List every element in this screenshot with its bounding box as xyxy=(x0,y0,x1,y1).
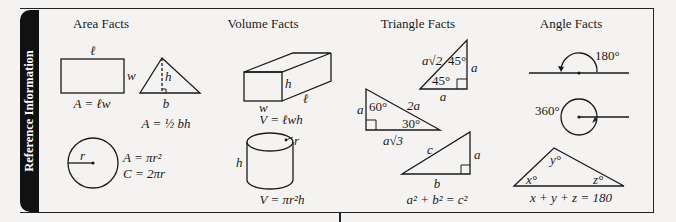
iso-angle-bottom: 45° xyxy=(432,73,450,88)
cylinder-top xyxy=(247,133,293,151)
triangle-base-label: b xyxy=(163,96,170,111)
angle-z-label: z° xyxy=(592,172,603,187)
rectangle-shape xyxy=(61,59,124,93)
straight-angle-label: 180° xyxy=(595,48,620,63)
tri3060-short-leg: a xyxy=(357,102,364,117)
circle-area-formula: A = πr² xyxy=(122,150,163,165)
iso-vertical-leg-label: a xyxy=(471,60,478,75)
triangle-height-label: h xyxy=(165,69,172,84)
tri3060-angle-bottom: 30° xyxy=(402,116,420,131)
angle-y-label: y° xyxy=(548,152,561,167)
angle-x-label: x° xyxy=(525,172,537,187)
iso-horizontal-leg-label: a xyxy=(440,89,447,104)
rectangle-width-label: w xyxy=(127,68,136,83)
figures: ℓ w A = ℓw h b A = ½ bh r A = πr² C = 2π… xyxy=(0,0,676,222)
straight-angle-arc xyxy=(561,53,597,72)
pythagorean-formula: a² + b² = c² xyxy=(406,192,468,207)
box-length-label: ℓ xyxy=(303,91,309,106)
box-volume-formula: V = ℓwh xyxy=(259,112,303,127)
iso-hypotenuse-label: a√2 xyxy=(422,53,443,68)
circle-circumference-formula: C = 2πr xyxy=(123,166,166,181)
angle-sum-formula: x + y + z = 180 xyxy=(529,190,612,205)
iso-angle-top: 45° xyxy=(448,53,466,68)
box-height-label: h xyxy=(285,76,292,91)
cylinder-volume-formula: V = πr²h xyxy=(260,192,305,207)
tri3060-hypotenuse: 2a xyxy=(407,98,421,113)
box-top xyxy=(244,53,331,72)
tri3060-long-leg: a√3 xyxy=(383,133,404,148)
pythagorean-triangle xyxy=(402,132,470,174)
cylinder-radius-label: r xyxy=(294,133,300,148)
pyth-vertical-leg: a xyxy=(474,147,481,162)
pyth-hypotenuse: c xyxy=(427,142,433,157)
cylinder-height-label: h xyxy=(236,155,243,170)
tri3060-angle-top: 60° xyxy=(369,99,387,114)
rectangle-length-label: ℓ xyxy=(90,43,96,58)
rectangle-formula: A = ℓw xyxy=(72,96,110,111)
circle-radius-label: r xyxy=(80,148,86,163)
pyth-horizontal-leg: b xyxy=(434,176,441,191)
triangle-area-formula: A = ½ bh xyxy=(141,116,191,131)
box-front xyxy=(244,72,282,101)
full-angle-label: 360° xyxy=(535,103,560,118)
